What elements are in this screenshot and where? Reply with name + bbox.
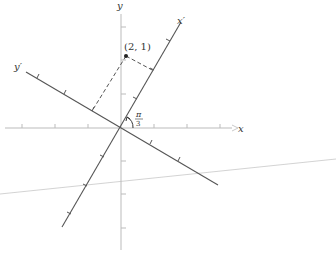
rotated-axes-diagram: (2, 1) π 3 x y x′ y′: [0, 0, 336, 253]
x-axis-label: x: [238, 123, 244, 134]
angle-numerator: π: [135, 110, 142, 119]
x-prime-axis-label: x′: [177, 15, 186, 26]
y-prime-axis-label: y′: [13, 61, 23, 72]
point-label: (2, 1): [124, 41, 151, 52]
point-marker: [124, 54, 128, 58]
y-axis-label: y: [116, 0, 123, 11]
stray-line: [0, 159, 336, 194]
angle-denominator: 3: [136, 120, 140, 128]
